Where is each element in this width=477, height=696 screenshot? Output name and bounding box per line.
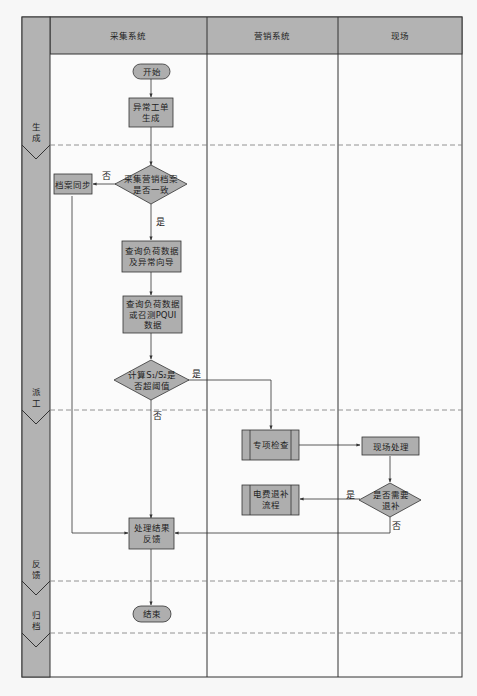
edge-label-no: 否 (153, 411, 162, 421)
archive-consistency-label: 是否一致 (133, 185, 169, 195)
swimlane-flowchart: 采集系统 营销系统 现场 生 成 派 工 反 馈 归 档 开始 (0, 0, 477, 696)
result-feedback-label: 处理结果 (134, 523, 170, 533)
query-load-pqui-label: 或召测PQUI (129, 310, 177, 320)
edge-label-yes: 是 (346, 490, 355, 500)
abnormal-ticket-label: 生成 (142, 113, 160, 123)
fee-refund-flow-node[interactable]: 电费退补 流程 (242, 485, 299, 515)
fee-refund-flow-label: 流程 (262, 500, 280, 510)
start-node[interactable]: 开始 (133, 64, 170, 79)
threshold-decision-label: 否超阈值 (134, 381, 170, 391)
lane-header-collection-system: 采集系统 (110, 31, 146, 41)
phase-label-feedback: 反 (32, 559, 41, 569)
query-load-pqui-node[interactable]: 查询负荷数据 或召测PQUI 数据 (123, 296, 182, 333)
archive-consistency-label: 采集营销档案 (124, 174, 178, 184)
phase-label-generate: 成 (32, 133, 41, 143)
archive-sync-label: 档案同步 (55, 180, 91, 190)
fee-refund-flow-label: 电费退补 (253, 489, 289, 499)
end-label: 结束 (143, 609, 161, 619)
query-load-guide-label: 及异常向导 (129, 257, 174, 267)
special-check-node[interactable]: 专项检查 (242, 430, 299, 460)
abnormal-ticket-label: 异常工单 (133, 102, 169, 112)
phase-label-dispatch: 派 (32, 387, 41, 397)
lane-header-field: 现场 (391, 31, 409, 41)
phase-label-archive: 档 (32, 621, 41, 631)
start-label: 开始 (143, 67, 161, 77)
phase-label-dispatch: 工 (32, 398, 41, 408)
diagram-frame (22, 17, 462, 677)
query-load-pqui-label: 数据 (144, 320, 162, 330)
edge-label-yes: 是 (192, 369, 201, 379)
field-handling-node[interactable]: 现场处理 (362, 437, 419, 455)
query-load-guide-label: 查询负荷数据 (125, 246, 179, 256)
result-feedback-label: 反馈 (143, 534, 161, 544)
edge-label-yes: 是 (156, 217, 165, 227)
end-node[interactable]: 结束 (133, 606, 171, 622)
phase-label-archive: 归 (32, 610, 41, 620)
query-load-guide-node[interactable]: 查询负荷数据 及异常向导 (122, 241, 181, 272)
phase-label-feedback: 馈 (32, 570, 41, 580)
need-refund-label: 是否需要 (373, 490, 409, 500)
archive-sync-node[interactable]: 档案同步 (54, 174, 92, 194)
result-feedback-node[interactable]: 处理结果 反馈 (129, 518, 174, 549)
abnormal-ticket-node[interactable]: 异常工单 生成 (129, 98, 173, 127)
edge-label-no: 否 (392, 521, 401, 531)
lane-header-marketing-system: 营销系统 (254, 31, 290, 41)
special-check-label: 专项检查 (253, 440, 289, 450)
field-handling-label: 现场处理 (373, 442, 409, 452)
phase-label-generate: 生 (32, 122, 41, 132)
need-refund-label: 退补 (382, 501, 400, 511)
threshold-decision-label: 计算S₁/S₂是 (128, 370, 175, 380)
query-load-pqui-label: 查询负荷数据 (126, 299, 180, 309)
edge-label-no: 否 (102, 171, 111, 181)
